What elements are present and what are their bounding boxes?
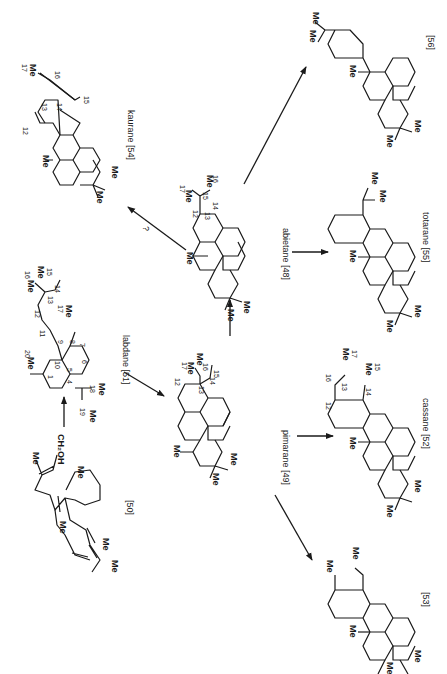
methyl-label: Me xyxy=(311,12,321,25)
compound-53-label: [53] xyxy=(421,592,431,607)
compound-50: Me CH₂OH Me Me Me Me [50] xyxy=(31,434,135,573)
ch2oh-label: CH₂OH xyxy=(56,434,66,465)
atom-number: 18 xyxy=(89,385,96,393)
atom-number: 14 xyxy=(212,202,219,210)
compound-55-label: totarane [55] xyxy=(421,212,431,263)
methyl-label: Me xyxy=(88,410,98,423)
atom-number: 16 xyxy=(212,175,219,183)
methyl-label: Me xyxy=(58,521,68,534)
compound-51-labdane: 5 10 1 4 6 7 8 9 11 12 13 14 15 Me 16 Me… xyxy=(24,266,131,423)
methyl-label: Me xyxy=(341,348,351,361)
methyl-label: Me xyxy=(364,363,374,376)
methyl-label: Me xyxy=(385,135,395,148)
methyl-label: Me xyxy=(211,473,221,486)
diterpene-diagram: Me CH₂OH Me Me Me Me [50] 5 10 1 4 6 7 8… xyxy=(0,0,447,674)
atom-number: 13 xyxy=(204,212,211,220)
compound-54-kaurane: 12 13 14 15 16 17 Me Me Me Me kaurane [5… xyxy=(21,64,136,204)
atom-number: 13 xyxy=(198,386,205,394)
atom-number: 19 xyxy=(79,408,86,416)
methyl-label: Me xyxy=(242,301,252,314)
methyl-label: Me xyxy=(186,362,196,375)
methyl-label: Me xyxy=(31,452,41,465)
methyl-label: Me xyxy=(370,172,380,185)
atom-number: 15 xyxy=(213,370,220,378)
methyl-label: Me xyxy=(101,538,111,551)
atom-number: 12 xyxy=(325,402,332,410)
atom-number: 8 xyxy=(69,340,76,344)
atom-number: 13 xyxy=(41,103,48,111)
methyl-label: Me xyxy=(184,190,194,203)
methyl-label: Me xyxy=(36,266,46,279)
methyl-label: Me xyxy=(413,305,423,318)
methyl-label: Me xyxy=(95,191,105,204)
methyl-label: Me xyxy=(413,650,423,663)
atom-number: 14 xyxy=(56,103,63,111)
methyl-label: Me xyxy=(28,64,38,77)
atom-number: 6 xyxy=(81,360,88,364)
atom-number: 12 xyxy=(174,378,181,386)
atom-number: 13 xyxy=(341,383,348,391)
atom-number: 15 xyxy=(202,192,209,200)
atom-number: 14 xyxy=(209,377,216,385)
atom-number: 16 xyxy=(54,71,61,79)
atom-number: 17 xyxy=(21,64,28,72)
atom-number: 17 xyxy=(351,350,358,358)
atom-number: 16 xyxy=(325,374,332,382)
methyl-label: Me xyxy=(413,120,423,133)
compound-56-label: [56] xyxy=(426,35,436,50)
arrow-49-to-53 xyxy=(275,495,312,560)
atom-number: 16 xyxy=(202,363,209,371)
methyl-label: Me xyxy=(26,357,36,370)
compound-54-label: kaurane [54] xyxy=(126,110,136,160)
compound-55-totarane: Me Me Me Me Me totarane [55] xyxy=(328,172,431,333)
compound-52-cassane: 12 13 14 15 Me 16 Me 17 Me Me Me cassane… xyxy=(325,348,431,518)
compound-50-label: [50] xyxy=(125,500,135,515)
compound-48-label: abietane [48] xyxy=(281,228,291,280)
atom-number: 12 xyxy=(22,127,29,135)
atom-number: 7 xyxy=(79,343,86,347)
atom-number: 14 xyxy=(365,388,372,396)
methyl-label: Me xyxy=(41,155,51,168)
methyl-label: Me xyxy=(348,65,358,78)
atom-number: 12 xyxy=(34,310,41,318)
methyl-label: Me xyxy=(64,305,74,318)
methyl-label: Me xyxy=(325,560,335,573)
methyl-label: Me xyxy=(229,453,239,466)
methyl-label: Me xyxy=(308,30,318,43)
methyl-label: Me xyxy=(110,560,120,573)
atom-number: 4 xyxy=(66,380,73,384)
methyl-label: Me xyxy=(110,166,120,179)
methyl-label: Me xyxy=(378,190,388,203)
compound-53: Me Me Me Me Me [53] xyxy=(325,547,431,674)
atom-number: 5 xyxy=(66,368,73,372)
atom-number: 11 xyxy=(39,330,46,337)
atom-number: 10 xyxy=(54,361,61,369)
methyl-label: Me xyxy=(385,320,395,333)
atom-number: 14 xyxy=(54,285,61,293)
arrow-48-to-56 xyxy=(244,67,306,184)
compound-51-label: labdane [51] xyxy=(121,335,131,385)
atom-number: 15 xyxy=(374,363,381,371)
uncertain-step-label: ? xyxy=(141,226,151,231)
compound-52-label: cassane [52] xyxy=(421,398,431,449)
atom-number: 1 xyxy=(47,375,54,379)
atom-number: 9 xyxy=(57,340,64,344)
atom-number: 15 xyxy=(83,96,90,104)
atom-number: 12 xyxy=(192,210,199,218)
methyl-label: Me xyxy=(348,437,358,450)
methyl-label: Me xyxy=(172,445,182,458)
atom-number: 13 xyxy=(47,296,54,304)
methyl-label: Me xyxy=(26,280,36,293)
compound-56: Me Me Me Me Me [56] xyxy=(308,12,436,148)
methyl-label: Me xyxy=(351,547,361,560)
methyl-label: Me xyxy=(76,466,86,479)
compound-48-abietane: 12 13 14 15 17 Me Me 16 Me Me Me abietan… xyxy=(179,175,291,322)
compound-49-pimarane: 12 13 14 15 17 Me Me 16 Me Me Me pimaran… xyxy=(172,353,291,486)
methyl-label: Me xyxy=(348,250,358,263)
compound-49-label: pimarane [49] xyxy=(281,430,291,485)
atom-number: 16 xyxy=(24,271,31,279)
methyl-label: Me xyxy=(348,625,358,638)
methyl-label: Me xyxy=(385,662,395,674)
arrow-48-to-54 xyxy=(128,207,186,250)
methyl-label: Me xyxy=(385,505,395,518)
